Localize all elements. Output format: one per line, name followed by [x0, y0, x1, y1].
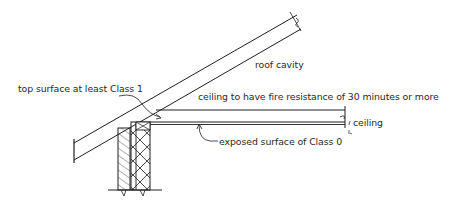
ground-line [108, 190, 162, 196]
roof-cavity-label: roof cavity [255, 60, 304, 69]
timber-wall-plate [131, 122, 150, 190]
ceiling-joist [150, 106, 345, 128]
top-surface-label: top surface at least Class 1 [18, 84, 143, 93]
ceiling-label: ceiling [353, 118, 383, 127]
exposed-surface-label: exposed surface of Class 0 [219, 137, 342, 146]
fire-resistance-label: ceiling to have fire resistance of 30 mi… [198, 92, 439, 101]
leader-top-surface [119, 95, 161, 119]
leader-exposed-surface [197, 124, 218, 141]
masonry-wall [118, 128, 130, 190]
roof-ceiling-section-drawing [0, 0, 449, 205]
ceiling-break-mark [349, 121, 352, 134]
